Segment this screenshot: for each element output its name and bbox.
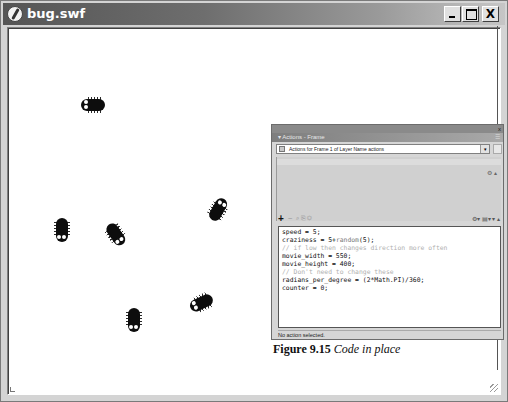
code-line: craziness = 5+random(5); <box>282 236 497 244</box>
code-line: radians_per_degree = (2*Math.PI)/360; <box>282 276 497 284</box>
minimize-button[interactable] <box>444 6 461 22</box>
panel-header[interactable]: x <box>272 125 503 133</box>
debug-options-icons[interactable]: ⚙▾ ▤▾ ▾ ▴ <box>472 215 500 222</box>
bug-sprite <box>187 291 215 314</box>
bug-eye <box>57 235 61 239</box>
bug-eye <box>62 235 66 239</box>
toolbox-strip <box>277 159 501 165</box>
code-line: speed = 5; <box>282 228 497 236</box>
actions-toolbox: ⚙ ▴ <box>276 157 501 221</box>
bug-sprite <box>81 97 105 111</box>
figure-caption: Figure 9.15 Code in place <box>273 342 400 357</box>
target-label: Actions for Frame 1 of Layer Name action… <box>289 145 384 153</box>
find-replace-icons[interactable]: ⌕ ⎘ ◎ <box>296 215 312 222</box>
frame-icon <box>279 146 285 152</box>
bug-eye <box>129 325 133 329</box>
bug-sprite <box>102 221 127 249</box>
window-title: bug.swf <box>27 5 85 23</box>
figure-text: Code in place <box>334 342 401 356</box>
actions-panel: x ▾ Actions - Frame ☰ Actions for Frame … <box>271 124 504 340</box>
title-bar[interactable]: bug.swf X <box>3 3 505 25</box>
pin-script-button[interactable] <box>493 144 502 154</box>
panel-close-icon[interactable]: x <box>498 125 501 133</box>
flash-app-icon <box>7 6 23 22</box>
code-line: counter = 0; <box>282 284 497 292</box>
delete-statement-button[interactable]: − <box>288 214 293 223</box>
bug-eye <box>84 105 88 109</box>
bug-sprite <box>126 308 140 332</box>
code-line: movie_width = 550; <box>282 252 497 260</box>
corner-mark <box>10 387 15 392</box>
close-button[interactable]: X <box>482 6 499 22</box>
bug-eye <box>134 325 138 329</box>
resize-grip[interactable] <box>490 384 498 392</box>
add-statement-button[interactable]: + <box>278 213 284 224</box>
status-bar: No action selected. <box>278 330 501 339</box>
view-options-icon[interactable]: ⚙ ▴ <box>487 169 497 176</box>
panel-menu-icon[interactable]: ☰ <box>495 133 500 142</box>
bug-sprite <box>54 218 68 242</box>
code-line: // if low then changes direction more of… <box>282 244 497 252</box>
actions-tab-label: ▾ Actions - Frame <box>278 134 325 140</box>
actions-tab[interactable]: ▾ Actions - Frame ☰ <box>272 133 503 142</box>
maximize-button[interactable] <box>462 6 479 22</box>
bug-eye <box>84 100 88 104</box>
script-toolbar: + − ⌕ ⎘ ◎ ⚙▾ ▤▾ ▾ ▴ <box>278 215 500 225</box>
target-dropdown[interactable]: Actions for Frame 1 of Layer Name action… <box>276 144 490 154</box>
code-line: // Don't need to change these <box>282 268 497 276</box>
figure-guide-line <box>497 26 498 124</box>
bug-sprite <box>207 196 231 224</box>
chevron-down-icon[interactable]: ▾ <box>480 145 489 153</box>
window-controls: X <box>444 6 499 22</box>
figure-label: Figure 9.15 <box>273 342 331 356</box>
figure-guide-line <box>497 340 498 370</box>
code-line: movie_height = 400; <box>282 260 497 268</box>
script-editor[interactable]: speed = 5;craziness = 5+random(5);// if … <box>278 226 501 328</box>
